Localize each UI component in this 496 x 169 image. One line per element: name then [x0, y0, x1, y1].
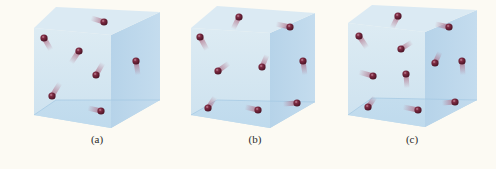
molecule-ball [286, 23, 293, 30]
molecule-ball [196, 33, 203, 40]
molecule-ball [100, 18, 107, 25]
panel-label-b: (b) [249, 133, 262, 145]
molecule-ball [414, 106, 421, 113]
panel-label-c: (c) [406, 133, 418, 145]
molecule-ball [235, 13, 242, 20]
molecule-ball [451, 98, 458, 105]
molecule-ball [299, 57, 306, 64]
molecule-ball [431, 59, 438, 66]
molecule-ball [458, 57, 465, 64]
molecule-ball [258, 63, 265, 70]
cube-panel-a [34, 7, 160, 128]
cube-panel-b [191, 6, 315, 128]
molecule-ball [254, 106, 261, 113]
molecule-ball [40, 34, 47, 41]
molecule-ball [364, 103, 371, 110]
molecule-ball [75, 47, 82, 54]
molecule-ball [214, 67, 221, 74]
panel-label-a: (a) [91, 133, 103, 145]
molecule-ball [445, 23, 452, 30]
molecule-ball [204, 104, 211, 111]
molecule-ball [132, 57, 139, 64]
molecule-ball [92, 71, 99, 78]
molecule-ball [394, 12, 401, 19]
molecule-ball [369, 72, 376, 79]
cube-panel-c [348, 5, 477, 127]
cube-side-face [270, 13, 315, 128]
molecule-ball [355, 32, 362, 39]
molecule-ball [293, 99, 300, 106]
molecule-ball [397, 45, 404, 52]
molecule-ball [48, 92, 55, 99]
molecule-ball [402, 70, 409, 77]
molecule-ball [97, 107, 104, 114]
